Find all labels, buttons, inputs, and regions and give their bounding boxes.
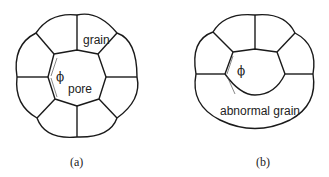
pore-label: pore bbox=[68, 83, 92, 95]
dihedral-angle-label-b: ϕ bbox=[237, 65, 245, 77]
caption-a: (a) bbox=[70, 156, 83, 168]
dihedral-angle-label-a: ϕ bbox=[56, 71, 64, 83]
abnormal-grain-label: abnormal grain bbox=[220, 105, 300, 117]
caption-b: (b) bbox=[256, 156, 270, 168]
grain-label: grain bbox=[83, 34, 110, 46]
figure-b-angle-marker bbox=[227, 56, 235, 94]
diagram-canvas bbox=[0, 0, 329, 177]
figure-a-grains bbox=[16, 14, 138, 137]
